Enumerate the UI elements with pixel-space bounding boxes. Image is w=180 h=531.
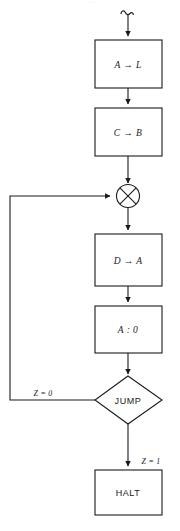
label-box-d-to-a: D → A bbox=[113, 256, 143, 266]
label-branch-z-equals-0: Z = 0 bbox=[34, 389, 53, 398]
label-box-c-to-b: C → B bbox=[114, 128, 142, 138]
edge-feedback-loop-jump-to-junction bbox=[10, 196, 110, 400]
label-box-a-compare-0: A : 0 bbox=[117, 325, 138, 335]
label-box-a-to-l: A → L bbox=[113, 60, 141, 70]
flowchart-canvas: A → L C → B D → A A : 0 JUMP HALT Z = 0 … bbox=[0, 0, 180, 531]
label-branch-z-equals-1: Z = 1 bbox=[142, 457, 161, 466]
label-decision-jump: JUMP bbox=[115, 396, 142, 406]
flowchart-figure: · · bbox=[0, 0, 180, 531]
start-hook-curl bbox=[121, 11, 133, 15]
label-box-halt: HALT bbox=[116, 488, 141, 498]
